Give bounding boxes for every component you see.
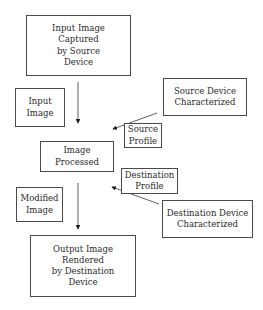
source-profile-box: Source Profile [124, 123, 162, 148]
destination-profile-box: Destination Profile [121, 168, 178, 194]
image-processed-box: Image Processed [40, 141, 114, 172]
modified-image-label-box: Modified Image [16, 187, 63, 222]
input-captured-box: Input Image Captured by Source Device [26, 15, 131, 76]
input-image-label-box: Input Image [15, 88, 65, 127]
output-rendered-box: Output Image Rendered by Destination Dev… [30, 235, 136, 297]
destination-device-box: Destination Device Characterized [162, 200, 253, 238]
source-device-box: Source Device Characterized [163, 78, 247, 116]
